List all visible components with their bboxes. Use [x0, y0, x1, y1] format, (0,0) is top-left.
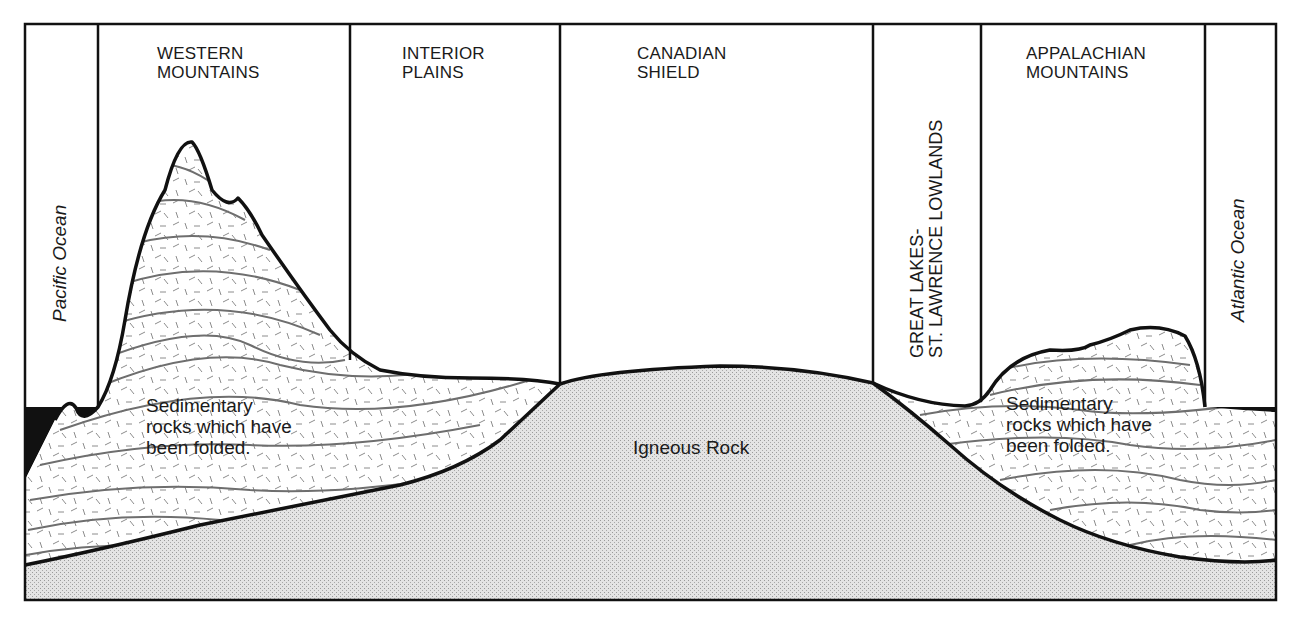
region-label-pacific-ocean: Pacific Ocean — [50, 205, 70, 322]
landform-cross-section-diagram: WESTERN MOUNTAINS INTERIOR PLAINS CANADI… — [0, 0, 1292, 621]
region-label-appalachian-mountains: APPALACHIAN MOUNTAINS — [1026, 44, 1146, 82]
right-sedimentary-rock-label: Sedimentary rocks which have been folded… — [1006, 393, 1152, 456]
igneous-rock-label: Igneous Rock — [633, 437, 749, 458]
region-label-canadian-shield: CANADIAN SHIELD — [637, 44, 726, 82]
region-label-western-mountains: WESTERN MOUNTAINS — [157, 44, 260, 82]
region-label-great-lakes-lowlands: GREAT LAKES- ST. LAWRENCE LOWLANDS — [908, 120, 946, 358]
region-label-atlantic-ocean: Atlantic Ocean — [1228, 198, 1248, 322]
left-sedimentary-rock-label: Sedimentary rocks which have been folded… — [146, 395, 292, 458]
cross-section-drawing — [0, 0, 1292, 621]
region-label-interior-plains: INTERIOR PLAINS — [402, 44, 485, 82]
